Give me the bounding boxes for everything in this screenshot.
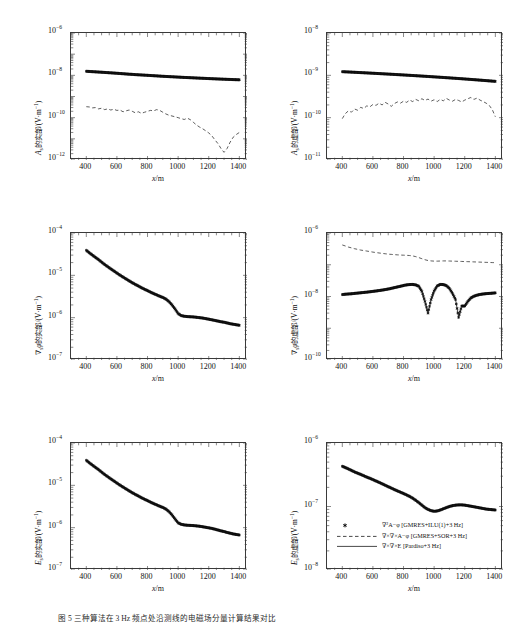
legend-key-dashed-icon (336, 531, 378, 542)
x-axis-label-p6: x/m (394, 584, 434, 593)
figure-root: 10−610−1210−810−10As的实部/(V·m−1)400600800… (0, 0, 512, 624)
y-axis-label-p6: Es的虚部/(V·m−1) (288, 511, 299, 565)
y-tick-label: 10−8 (304, 563, 318, 572)
legend-label: ∇×∇×A−φ [GMRES+SOR+3 Hz] (382, 531, 467, 542)
legend-label: ∇×∇×E [Pardiso+3 Hz] (382, 541, 441, 552)
legend-key-solid-icon (336, 541, 378, 552)
y-tick-label: 10−7 (304, 500, 318, 509)
legend-key-marker-icon (336, 520, 378, 531)
y-tick-label: 10−6 (304, 436, 318, 445)
series-solid (342, 466, 495, 511)
series-marker (341, 465, 497, 513)
legend-label: ∇²A−φ [GMRES+ILU(1)+3 Hz] (382, 520, 463, 531)
figure-caption: 图 5 三种算法在 3 Hz 频点处沿测线的电磁场分量计算结果对比 (58, 612, 276, 623)
x-tick-label: 1400 (474, 572, 512, 581)
